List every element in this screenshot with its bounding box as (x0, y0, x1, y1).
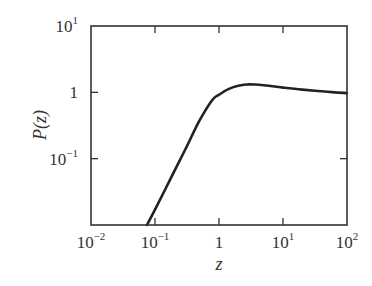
y-tick-label: 10−1 (49, 147, 78, 169)
x-tick-label: 10−2 (77, 230, 106, 252)
x-axis-ticks (155, 26, 283, 225)
y-tick-label: 101 (56, 14, 79, 36)
x-tick-label: 1 (215, 233, 224, 252)
y-axis-label: P(z) (30, 110, 51, 141)
x-tick-label: 102 (336, 230, 359, 252)
x-axis-label: z (214, 254, 222, 274)
plot-frame (91, 26, 347, 225)
x-tick-label: 10−1 (141, 230, 170, 252)
y-tick-label: 1 (70, 83, 79, 102)
data-line-p-of-z (147, 84, 347, 225)
chart: 10−210−11101102 10−11101 z P(z) (0, 0, 372, 286)
y-axis-tick-labels: 10−11101 (49, 14, 78, 169)
x-tick-label: 101 (272, 230, 295, 252)
y-axis-ticks (91, 92, 347, 158)
x-axis-tick-labels: 10−210−11101102 (77, 230, 359, 252)
